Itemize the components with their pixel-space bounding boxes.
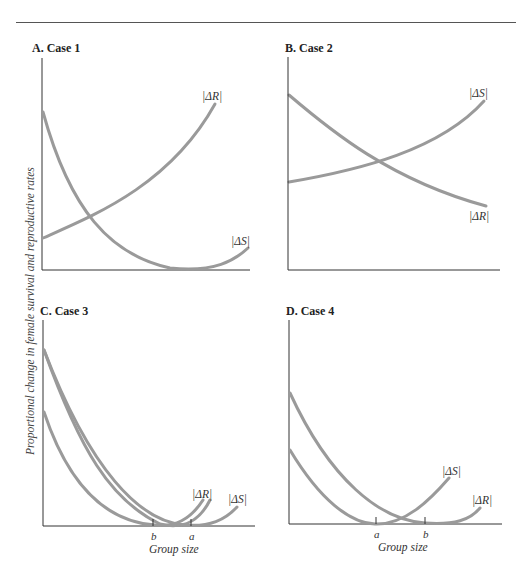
panel-c-curve-s-left: [44, 350, 210, 526]
panel-b-curve-s: [289, 101, 484, 182]
panel-b-title: B. Case 2: [285, 41, 333, 55]
panel-b: B. Case 2 |ΔS| |ΔR|: [285, 41, 500, 270]
panel-b-label-s: |ΔS|: [469, 87, 488, 100]
panel-a-title: A. Case 1: [32, 41, 80, 55]
panel-b-label-r: |ΔR|: [469, 210, 489, 223]
panel-d-curve-r: [290, 393, 480, 523]
panel-c-title: C. Case 3: [40, 304, 88, 318]
panel-d-curve-s: [290, 450, 449, 524]
panel-c-tick-label-b: b: [151, 530, 157, 542]
panel-a-label-s: |ΔS|: [231, 235, 250, 248]
panel-d: D. Case 4 a b Group size |ΔS| |ΔR|: [286, 304, 502, 554]
panel-c-x-label: Group size: [149, 543, 199, 556]
panel-a-curve-s: [43, 112, 248, 269]
panel-d-label-r: |ΔR|: [472, 494, 492, 507]
panel-c: C. Case 3 b a Group size |ΔR| |ΔS|: [40, 304, 255, 556]
panel-b-curve-r: [289, 95, 486, 206]
panel-d-label-s: |ΔS|: [442, 465, 461, 478]
panel-a-curve-r: [43, 104, 215, 238]
panel-d-tick-label-a: a: [374, 528, 380, 540]
panel-d-tick-label-b: b: [423, 528, 429, 540]
figure: A. Case 1 |ΔR| |ΔS| B. Case 2 |ΔS| |ΔR| …: [0, 0, 530, 577]
panel-c-curve-r: [44, 412, 203, 525]
y-axis-label: Proportional change in female survival a…: [24, 167, 37, 456]
panel-d-x-label: Group size: [378, 541, 428, 554]
panel-c-tick-label-a: a: [189, 530, 195, 542]
panel-a: A. Case 1 |ΔR| |ΔS|: [32, 41, 250, 270]
panel-a-label-r: |ΔR|: [202, 90, 222, 103]
panel-d-title: D. Case 4: [286, 304, 334, 318]
panel-c-label-r: |ΔR|: [192, 488, 212, 501]
panel-c-label-s: |ΔS|: [228, 493, 247, 506]
